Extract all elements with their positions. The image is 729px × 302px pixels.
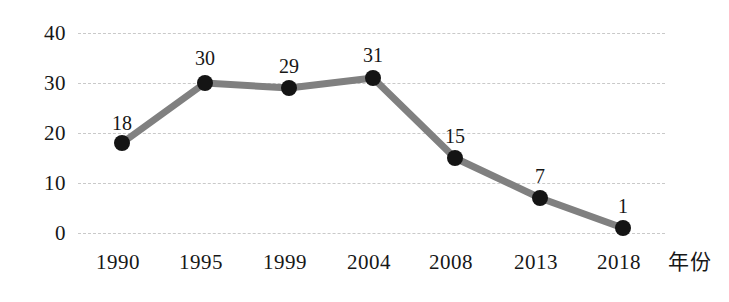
data-label-1999: 29 bbox=[259, 56, 319, 76]
data-point-2004 bbox=[365, 70, 381, 86]
data-point-2018 bbox=[615, 220, 631, 236]
y-tick-label-40: 40 bbox=[20, 23, 66, 44]
plot-area: 18 30 29 31 15 7 1 bbox=[78, 33, 665, 233]
x-tick-label-1999: 1999 bbox=[247, 252, 323, 273]
data-point-1990 bbox=[114, 135, 130, 151]
data-point-2008 bbox=[447, 150, 463, 166]
y-tick-label-30: 30 bbox=[20, 73, 66, 94]
data-point-2013 bbox=[532, 190, 548, 206]
data-label-2008: 15 bbox=[425, 126, 485, 146]
x-tick-label-1995: 1995 bbox=[163, 252, 239, 273]
data-point-1999 bbox=[281, 80, 297, 96]
data-point-1995 bbox=[197, 75, 213, 91]
x-axis-title: 年份 bbox=[668, 252, 712, 273]
x-tick-label-2004: 2004 bbox=[331, 252, 407, 273]
y-tick-label-0: 0 bbox=[20, 223, 66, 244]
x-tick-label-1990: 1990 bbox=[80, 252, 156, 273]
y-tick-label-10: 10 bbox=[20, 173, 66, 194]
gridline-0 bbox=[78, 233, 665, 234]
line-chart: 40 30 20 10 0 18 30 29 31 15 7 1 1990 19… bbox=[0, 0, 729, 302]
data-label-2004: 31 bbox=[343, 45, 403, 65]
y-tick-label-20: 20 bbox=[20, 123, 66, 144]
data-label-1990: 18 bbox=[92, 113, 152, 133]
x-tick-label-2018: 2018 bbox=[581, 252, 657, 273]
data-label-1995: 30 bbox=[175, 48, 235, 68]
data-label-2018: 1 bbox=[593, 196, 653, 216]
data-label-2013: 7 bbox=[510, 166, 570, 186]
x-tick-label-2008: 2008 bbox=[413, 252, 489, 273]
x-tick-label-2013: 2013 bbox=[498, 252, 574, 273]
